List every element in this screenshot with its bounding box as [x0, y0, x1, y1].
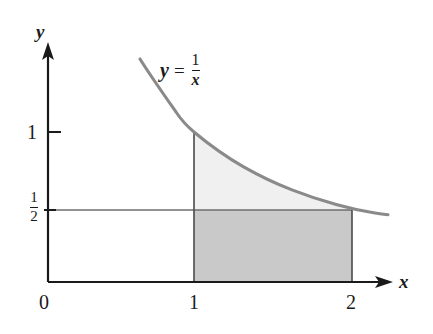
- fraction-numerator: 1: [30, 190, 38, 206]
- fraction-one-half: 1 2: [30, 190, 38, 224]
- y-tick-label-1: 1: [27, 122, 37, 142]
- equation-denominator: x: [192, 72, 200, 89]
- equation-numerator: 1: [192, 52, 200, 69]
- y-tick-label-one-half: 1 2: [25, 190, 43, 224]
- x-tick-label-2: 2: [346, 292, 356, 312]
- equation-lhs: y: [160, 60, 169, 80]
- math-figure: y x 0 1 2 1 1 2 y = 1 x: [0, 0, 433, 334]
- graph-canvas: [0, 0, 433, 334]
- equation-fraction: 1 x: [192, 52, 200, 88]
- x-tick-label-1: 1: [189, 292, 199, 312]
- y-axis-label: y: [36, 22, 44, 41]
- origin-tick-label: 0: [39, 292, 49, 312]
- equation-operator: =: [174, 61, 185, 80]
- x-axis-label: x: [399, 272, 409, 291]
- rectangle-below-half: [194, 210, 352, 282]
- fraction-denominator: 2: [30, 209, 38, 225]
- curve-equation-label: y = 1 x: [160, 52, 200, 88]
- region-under-curve-above-half: [194, 132, 352, 210]
